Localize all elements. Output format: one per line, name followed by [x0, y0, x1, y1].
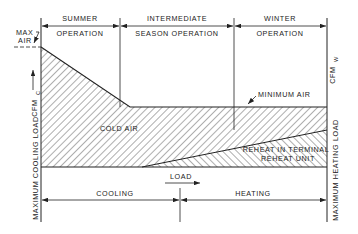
winter-label-2: OPERATION	[256, 29, 303, 38]
cfm-w-subscript: W	[333, 56, 339, 62]
summer-label-1: SUMMER	[62, 14, 98, 23]
max-heating-load-label: MAXIMUM HEATING LOAD	[331, 119, 340, 221]
minimum-air-label: MINIMUM AIR	[258, 90, 311, 99]
minimum-air-pointer	[248, 96, 256, 104]
load-label: LOAD	[170, 172, 192, 181]
max-air-pointer	[34, 32, 39, 43]
winter-label-1: WINTER	[264, 14, 296, 23]
cold-air-label: COLD AIR	[100, 124, 138, 133]
reheat-label-2: REHEAT UNIT	[261, 154, 315, 163]
max-cooling-load-label: MAXIMUM COOLING LOAD	[31, 116, 40, 219]
summer-label-2: OPERATION	[56, 29, 103, 38]
intermediate-label-2: SEASON OPERATION	[135, 29, 218, 38]
cfm-c-subscript: C	[35, 90, 41, 95]
cfm-c-label: CFM	[30, 99, 39, 116]
intermediate-label-1: INTERMEDIATE	[147, 14, 207, 23]
heating-label: HEATING	[235, 189, 271, 198]
cooling-label: COOLING	[96, 189, 133, 198]
cfm-w-label: CFM	[328, 66, 337, 83]
reheat-label-1: REHEAT IN TERMINAL	[243, 145, 330, 154]
air-volume-diagram: SUMMER OPERATION INTERMEDIATE SEASON OPE…	[0, 0, 358, 234]
max-air-label-2: AIR	[18, 36, 32, 45]
